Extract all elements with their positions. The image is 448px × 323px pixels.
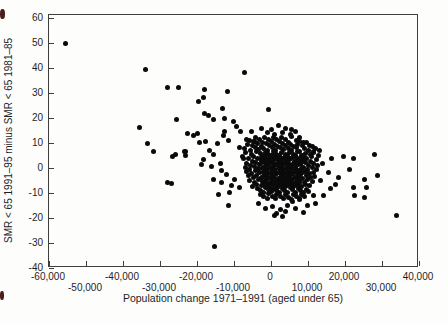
- data-point: [289, 197, 294, 202]
- x-tick-label: -40,000: [105, 271, 139, 282]
- x-tick-label: 20,000: [329, 271, 360, 282]
- data-point: [321, 193, 326, 198]
- y-tick-label: 30: [0, 87, 43, 98]
- data-point: [199, 162, 204, 167]
- data-point: [232, 177, 237, 182]
- data-point: [320, 161, 325, 166]
- data-point: [256, 201, 261, 206]
- data-point: [185, 131, 190, 136]
- x-tick-label: -20,000: [179, 271, 213, 282]
- data-point: [201, 95, 206, 100]
- data-point: [226, 203, 231, 208]
- y-tick-label: 0: [0, 162, 43, 173]
- data-point: [306, 189, 311, 194]
- data-point: [263, 206, 268, 211]
- data-point: [285, 203, 290, 208]
- data-point: [281, 196, 286, 201]
- data-point: [173, 152, 178, 157]
- y-tick-mark: [49, 193, 54, 194]
- x-tick-mark: [234, 261, 235, 266]
- data-point: [176, 85, 181, 90]
- data-point: [267, 185, 272, 190]
- data-point: [375, 173, 380, 178]
- data-point: [275, 185, 280, 190]
- y-tick-mark: [49, 143, 54, 144]
- data-point: [328, 186, 333, 191]
- y-tick-label: 20: [0, 112, 43, 123]
- data-point: [196, 99, 201, 104]
- data-point: [165, 85, 170, 90]
- data-point: [209, 164, 214, 169]
- data-point: [211, 177, 216, 182]
- data-point: [362, 195, 367, 200]
- y-tick-label: -30: [0, 237, 43, 248]
- data-point: [280, 214, 285, 219]
- data-point: [372, 152, 377, 157]
- data-point: [249, 129, 254, 134]
- x-tick-mark: [49, 261, 50, 266]
- data-point: [215, 141, 220, 146]
- data-point: [272, 213, 277, 218]
- data-point: [222, 116, 227, 121]
- x-tick-label: -60,000: [31, 271, 65, 282]
- data-point: [211, 117, 216, 122]
- data-point: [211, 152, 216, 157]
- data-point: [221, 133, 226, 138]
- data-point: [302, 194, 307, 199]
- data-point: [301, 210, 306, 215]
- x-tick-mark: [419, 261, 420, 266]
- data-point: [247, 178, 252, 183]
- data-point: [242, 70, 247, 75]
- y-tick-label: -10: [0, 187, 43, 198]
- data-point: [347, 167, 352, 172]
- data-point: [151, 149, 156, 154]
- data-point: [317, 148, 322, 153]
- x-tick-mark: [345, 261, 346, 266]
- data-point: [238, 129, 243, 134]
- data-point: [225, 89, 230, 94]
- data-point: [293, 129, 298, 134]
- x-tick-label: 40,000: [403, 271, 434, 282]
- data-point: [329, 156, 334, 161]
- y-tick-mark: [49, 18, 54, 19]
- data-point: [143, 67, 148, 72]
- data-point: [227, 190, 232, 195]
- data-point: [63, 41, 68, 46]
- y-tick-label: 10: [0, 137, 43, 148]
- data-point: [197, 140, 202, 145]
- data-point: [265, 196, 270, 201]
- data-point: [219, 168, 224, 173]
- data-point: [218, 161, 223, 166]
- data-point: [195, 131, 200, 136]
- data-point: [352, 193, 357, 198]
- data-point: [313, 201, 318, 206]
- y-tick-mark: [49, 43, 54, 44]
- data-point: [226, 138, 231, 143]
- y-tick-mark: [49, 68, 54, 69]
- data-point: [305, 203, 310, 208]
- data-point: [311, 193, 316, 198]
- x-tick-mark: [382, 261, 383, 266]
- data-point: [203, 139, 208, 144]
- data-point: [224, 172, 229, 177]
- x-tick-mark: [123, 261, 124, 266]
- data-point: [229, 183, 234, 188]
- plot-area: [48, 14, 418, 267]
- y-tick-mark: [49, 168, 54, 169]
- data-point: [276, 123, 281, 128]
- data-point: [362, 177, 367, 182]
- data-point: [336, 175, 341, 180]
- y-tick-label: 50: [0, 37, 43, 48]
- data-point: [270, 204, 275, 209]
- x-tick-mark: [271, 261, 272, 266]
- x-tick-label: 0: [267, 271, 273, 282]
- page-edge-mark-bottom: [0, 291, 4, 300]
- data-point: [341, 154, 346, 159]
- data-point: [212, 244, 217, 249]
- y-tick-mark: [49, 243, 54, 244]
- data-point: [137, 125, 142, 130]
- data-point: [169, 181, 174, 186]
- data-point: [333, 182, 338, 187]
- y-tick-label: 60: [0, 12, 43, 23]
- scatter-plot-figure: SMR < 65 1991–95 minus SMR < 65 1981–85 …: [0, 0, 448, 323]
